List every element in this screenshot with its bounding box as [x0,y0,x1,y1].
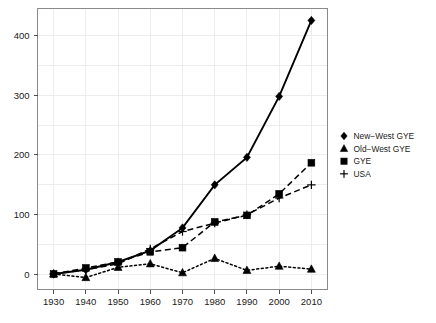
x-axis-tick-labels: 193019401950196019701980199020002010 [43,296,322,307]
x-tick-label: 1950 [107,296,128,307]
y-tick-label: 0 [24,269,29,280]
legend-entry-label: Old−West GYE [354,144,411,154]
x-tick-label: 2000 [269,296,290,307]
legend-entry-label: New−West GYE [354,131,415,141]
legend-entry-label: USA [354,169,372,179]
x-tick-label: 1980 [204,296,225,307]
x-tick-label: 1940 [75,296,96,307]
y-tick-label: 200 [14,149,30,160]
y-tick-label: 400 [14,30,30,41]
x-tick-label: 1960 [140,296,161,307]
square-marker [179,244,186,251]
square-marker [308,159,315,166]
x-tick-label: 2010 [301,296,322,307]
x-tick-label: 1990 [236,296,257,307]
y-tick-label: 100 [14,209,30,220]
square-marker [341,158,347,164]
chart-figure: 193019401950196019701980199020002010 010… [0,0,436,323]
line-chart: 193019401950196019701980199020002010 010… [0,0,436,323]
x-tick-label: 1930 [43,296,64,307]
y-tick-label: 300 [14,90,30,101]
x-tick-label: 1970 [172,296,193,307]
legend-entry-label: GYE [354,156,372,166]
